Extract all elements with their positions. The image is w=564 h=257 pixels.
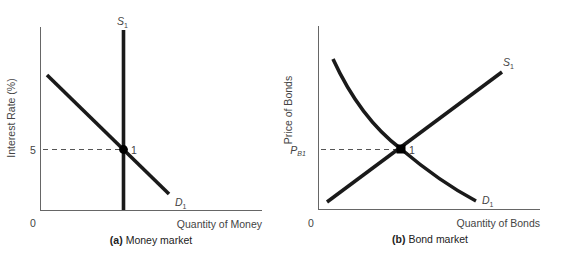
panel-b-origin-label: 0 bbox=[308, 217, 314, 229]
panel-b-y-axis-label: Price of Bonds bbox=[282, 76, 294, 144]
figure: Interest Rate (%) 5 0 Quantity of Money … bbox=[0, 0, 564, 257]
panel-a-origin-label: 0 bbox=[30, 217, 36, 229]
panel-a-x-axis-label: Quantity of Money bbox=[177, 218, 263, 230]
panel-b-caption: (b)Bond market bbox=[392, 233, 468, 245]
panel-a-y-tick-5: 5 bbox=[30, 144, 36, 156]
panel-a-equilibrium-point bbox=[119, 145, 128, 154]
panel-b-supply-label: S1 bbox=[503, 56, 514, 70]
panel-b-equilibrium-point bbox=[397, 145, 406, 154]
panel-b-y-tick-pb1: PB1 bbox=[290, 144, 306, 158]
panel-b-x-axis-label: Quantity of Bonds bbox=[457, 217, 540, 229]
panel-a-demand-curve bbox=[47, 75, 169, 194]
panel-a-money-market: Interest Rate (%) 5 0 Quantity of Money … bbox=[5, 15, 263, 246]
panel-a-caption: (a)Money market bbox=[110, 234, 192, 246]
panel-b-bond-market: Price of Bonds PB1 0 Quantity of Bonds 1… bbox=[282, 26, 540, 245]
panel-a-supply-label: S1 bbox=[117, 15, 128, 29]
panel-b-supply-curve bbox=[327, 72, 502, 202]
panel-a-equilibrium-label: 1 bbox=[131, 144, 137, 156]
panel-b-equilibrium-label: 1 bbox=[409, 144, 415, 156]
panel-a-demand-label: D1 bbox=[175, 196, 187, 210]
panel-a-y-axis-label: Interest Rate (%) bbox=[5, 78, 17, 157]
panel-b-demand-label: D1 bbox=[482, 194, 494, 208]
